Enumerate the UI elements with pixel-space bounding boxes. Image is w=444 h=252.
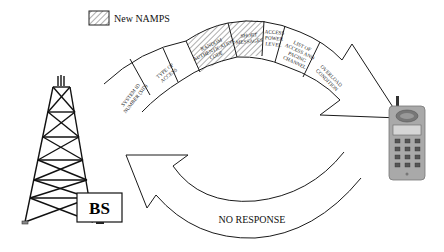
forward-arrow: SYSTEM ID NUMBER (SID) TYPE OF ACCESS RA… — [104, 20, 400, 118]
legend: New NAMPS — [89, 11, 170, 25]
segment-access-power-level: ACCESS POWER LEVEL — [263, 28, 284, 48]
legend-hatch-swatch — [89, 11, 109, 25]
legend-label: New NAMPS — [114, 13, 170, 24]
base-station-label: BS — [89, 199, 110, 218]
namps-diagram: New NAMPS SYSTEM ID NUMBER (SID) TYPE OF… — [0, 0, 444, 252]
no-response-label: NO RESPONSE — [219, 214, 286, 225]
segment-overload-condition: OVERLOAD CONDITION — [315, 63, 344, 92]
segment-label-line: LEVEL — [265, 40, 282, 47]
segment-type-of-access: TYPE OF ACCESS — [155, 61, 179, 84]
base-station-box: BS — [77, 193, 122, 224]
return-arrow: NO RESPONSE — [126, 152, 361, 238]
mobile-phone-icon — [389, 96, 425, 180]
